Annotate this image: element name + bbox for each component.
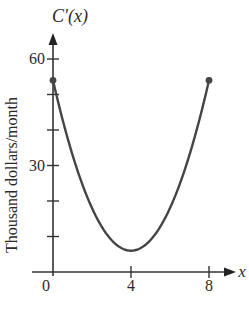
x-tick-label-0: 0: [42, 277, 50, 294]
y-axis-name: C′(x): [52, 6, 88, 27]
y-axis-arrow-icon: [49, 33, 58, 45]
derivative-curve: [53, 80, 209, 250]
y-tick-label-60: 60: [29, 50, 45, 67]
x-axis-name: x: [237, 262, 246, 281]
x-tick-label-8: 8: [205, 277, 213, 294]
endpoint-marker-right: [206, 77, 213, 84]
x-axis-arrow-icon: [224, 268, 236, 277]
chart: C′(x) x 60 30 0 4 8 Thousand dollars/mon…: [0, 0, 249, 310]
endpoint-marker-left: [50, 77, 57, 84]
x-tick-label-4: 4: [127, 277, 135, 294]
y-tick-label-30: 30: [29, 157, 45, 174]
y-axis-title: Thousand dollars/month: [3, 97, 20, 253]
